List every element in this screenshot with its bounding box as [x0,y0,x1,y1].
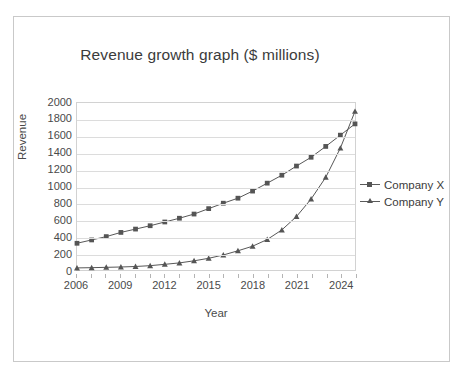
square-marker-icon [177,216,182,221]
gridline [77,255,355,256]
x-axis-tick-labels: 2006200920122015201820212024 [76,274,356,292]
triangle-marker-icon [250,243,256,248]
x-tick-label: 2015 [196,280,220,291]
x-tick-label: 2024 [329,280,353,291]
square-marker-icon [309,155,314,160]
plot-area [76,102,356,271]
gridline [77,188,355,189]
x-tick-mark [150,274,151,278]
series-line-company-x [77,124,355,243]
square-marker-icon [119,230,124,235]
x-tick-mark [91,274,92,278]
gridline [77,154,355,155]
x-tick-mark [179,274,180,278]
x-tick-mark [341,274,342,278]
x-tick-label: 2009 [108,280,132,291]
series-line-company-y [77,111,355,268]
gridline [77,171,355,172]
x-tick-label: 2006 [64,280,88,291]
triangle-marker-icon [308,196,314,201]
gridline [77,221,355,222]
square-marker-icon [236,196,241,201]
triangle-marker-icon [352,108,358,113]
x-axis-label: Year [76,307,356,319]
triangle-marker-icon [323,174,329,179]
x-tick-mark [327,274,328,278]
square-marker-icon [148,223,153,228]
square-marker-icon [75,241,80,246]
x-tick-mark [135,274,136,278]
gridline [77,238,355,239]
x-tick-mark [297,274,298,278]
x-tick-mark [253,274,254,278]
square-marker-icon [265,181,270,186]
legend-label-company-x: Company X [384,179,444,191]
x-tick-label: 2018 [241,280,265,291]
x-tick-mark [312,274,313,278]
x-tick-mark [209,274,210,278]
x-tick-label: 2012 [152,280,176,291]
x-tick-mark [164,274,165,278]
series-lines-svg [77,103,355,270]
chart-figure: Revenue growth graph ($ millions) Revenu… [0,0,463,379]
x-tick-mark [268,274,269,278]
x-tick-mark [223,274,224,278]
x-tick-mark [105,274,106,278]
x-tick-mark [120,274,121,278]
square-marker-icon [353,122,358,127]
x-tick-mark [356,274,357,278]
square-marker-icon [294,164,299,169]
gridline [77,204,355,205]
triangle-marker-icon [337,145,343,150]
square-marker-icon [360,179,380,191]
square-marker-icon [206,206,211,211]
x-tick-label: 2021 [285,280,309,291]
triangle-marker-icon [360,196,380,208]
square-marker-icon [279,173,284,178]
x-tick-mark [76,274,77,278]
x-tick-mark [282,274,283,278]
legend-item-company-x[interactable]: Company X [360,176,456,193]
square-marker-icon [323,144,328,149]
x-tick-mark [238,274,239,278]
gridline [77,137,355,138]
chart-legend: Company X Company Y [360,176,456,210]
x-tick-mark [194,274,195,278]
legend-item-company-y[interactable]: Company Y [360,193,456,210]
gridline [77,120,355,121]
square-marker-icon [250,189,255,194]
legend-label-company-y: Company Y [384,196,444,208]
square-marker-icon [192,212,197,217]
square-marker-icon [133,227,138,232]
